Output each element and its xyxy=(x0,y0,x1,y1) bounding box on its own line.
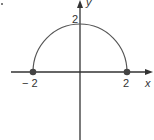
x-tick-label-neg2: − 2 xyxy=(22,78,38,89)
y-axis-arrow-icon xyxy=(77,0,83,8)
x-axis-label: x xyxy=(145,78,151,89)
x-axis-arrow-icon xyxy=(145,69,153,75)
left-endpoint-dot xyxy=(30,69,37,76)
y-tick-label-2: 2 xyxy=(72,14,78,25)
stray-dot xyxy=(1,3,3,5)
y-axis-label: y xyxy=(86,0,92,8)
right-endpoint-dot xyxy=(124,69,131,76)
x-tick-label-pos2: 2 xyxy=(123,78,129,89)
